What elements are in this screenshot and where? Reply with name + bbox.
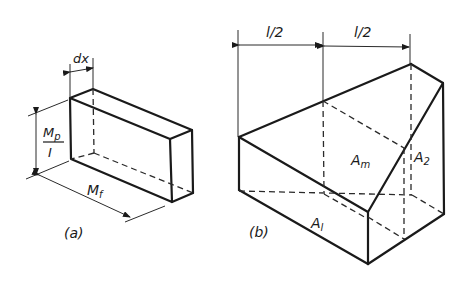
caption-b: (b) [249,224,269,240]
label-dx: dx [73,51,89,66]
label-mp: Mp [43,125,61,142]
label-al: Al [310,215,324,233]
figure-a: dx Mp I Mf (a) [26,51,193,241]
label-mf: Mf [87,182,104,200]
dimension-mp-over-i: Mp I [26,100,69,179]
label-l-half-left: l/2 [266,24,284,40]
figure-b: l/2 l/2 Am A2 Al [238,24,444,264]
label-am: Am [350,152,371,170]
diagram-canvas: dx Mp I Mf (a) l/2 l/2 [0,0,464,281]
dimension-mf: Mf [39,175,165,222]
dimension-l-half: l/2 l/2 [238,24,410,137]
label-l-half-right: l/2 [354,24,372,40]
label-a2: A2 [413,149,430,167]
label-i: I [48,145,52,160]
caption-a: (a) [64,225,84,241]
